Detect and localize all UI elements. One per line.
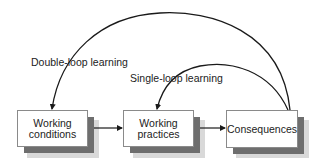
node-working-practices: Working practices — [123, 110, 194, 147]
node-consequences-label: Consequences — [227, 124, 297, 135]
single-loop-label: Single-loop learning — [130, 72, 223, 84]
node-consequences: Consequences — [226, 110, 298, 148]
node-working-conditions: Working conditions — [17, 110, 88, 147]
node-working-conditions-line1: Working — [29, 118, 76, 129]
node-working-practices-line2: practices — [137, 129, 179, 140]
double-loop-label: Double-loop learning — [31, 56, 128, 68]
node-working-practices-line1: Working — [137, 118, 179, 129]
node-working-conditions-line2: conditions — [29, 129, 76, 140]
